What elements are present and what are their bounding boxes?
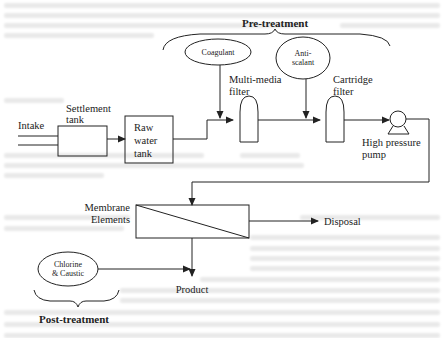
svg-text:Anti-: Anti- <box>295 49 312 58</box>
pre-treatment-group: Pre-treatment <box>163 17 390 50</box>
process-flow-diagram: Pre-treatment Coagulant Anti- scalant In… <box>0 0 446 338</box>
antiscalant-node: Anti- scalant <box>276 37 330 79</box>
high-pressure-pump-node: High pressure pump <box>362 111 421 160</box>
svg-text:Multi-media: Multi-media <box>229 74 282 85</box>
svg-text:High pressure: High pressure <box>362 137 421 148</box>
product-label: Product <box>176 284 209 295</box>
svg-text:Chlorine: Chlorine <box>54 260 82 269</box>
svg-text:Cartridge: Cartridge <box>333 74 373 85</box>
settlement-tank-node: Settlement tank <box>58 103 111 156</box>
disposal-label: Disposal <box>324 216 361 227</box>
svg-text:filter: filter <box>229 86 250 97</box>
svg-text:tank: tank <box>134 148 153 159</box>
svg-text:Raw: Raw <box>134 122 154 133</box>
svg-text:scalant: scalant <box>292 58 315 67</box>
post-treatment-group: Post-treatment <box>34 290 119 325</box>
svg-text:pump: pump <box>362 149 386 160</box>
svg-text:Elements: Elements <box>91 214 130 225</box>
edge-pump-to-membrane <box>192 119 429 205</box>
edge-raw-to-multimedia <box>173 120 233 139</box>
post-treatment-label: Post-treatment <box>39 313 109 325</box>
svg-text:& Caustic: & Caustic <box>52 269 85 278</box>
pre-treatment-brace <box>163 29 390 50</box>
chlorine-caustic-node: Chlorine & Caustic <box>38 252 98 286</box>
cartridge-filter-node: Cartridge filter <box>326 74 373 142</box>
membrane-elements-node: Membrane Elements <box>85 202 249 238</box>
svg-text:water: water <box>134 135 158 146</box>
svg-text:filter: filter <box>333 86 354 97</box>
coagulant-node: Coagulant <box>185 39 251 65</box>
svg-text:Settlement: Settlement <box>66 103 111 114</box>
post-treatment-brace <box>34 290 119 307</box>
svg-text:Coagulant: Coagulant <box>202 48 236 57</box>
svg-text:tank: tank <box>66 114 85 125</box>
multimedia-filter-node: Multi-media filter <box>229 74 282 142</box>
pre-treatment-label: Pre-treatment <box>242 17 309 29</box>
svg-text:Membrane: Membrane <box>85 202 131 213</box>
raw-water-tank-node: Raw water tank <box>125 116 173 163</box>
intake-label: Intake <box>18 120 45 131</box>
